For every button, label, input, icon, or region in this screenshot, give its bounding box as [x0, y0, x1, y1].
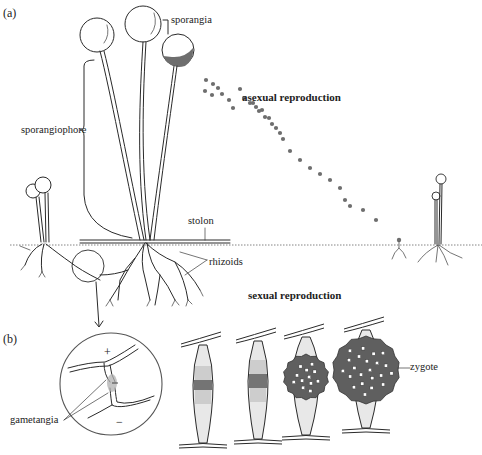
spore: [260, 108, 264, 112]
spore: [318, 172, 322, 176]
stage-mature-zygote: [333, 317, 399, 433]
panel-b-label: (b): [3, 333, 17, 345]
sporangiophore-bracket: [80, 60, 132, 238]
gametangia-label: gametangia: [10, 415, 58, 426]
spore: [298, 158, 302, 162]
sporangia-bracket: [163, 20, 168, 34]
spore: [328, 178, 332, 182]
magnify-arrow: [96, 282, 99, 326]
spore: [288, 149, 292, 153]
stolon-label: stolon: [188, 216, 214, 227]
gametangia-magnified-view: [60, 333, 162, 435]
spore: [348, 204, 352, 208]
sporangia-label: sporangia: [171, 15, 212, 26]
stage-young-zygote: [282, 324, 330, 440]
spore: [281, 137, 285, 141]
spore: [343, 198, 347, 202]
right-small-sporangiophores: [392, 174, 462, 265]
rhizoids-label: rhizoids: [209, 257, 243, 268]
spore: [231, 106, 235, 110]
spore: [374, 218, 378, 222]
panel-a-label: (a): [3, 7, 16, 19]
spore: [361, 208, 365, 212]
sporangium-releasing-spores: [162, 34, 194, 67]
spore: [278, 131, 282, 135]
stage-gametangia-contact: [179, 332, 227, 448]
spore: [211, 82, 215, 86]
sporangium-left: [80, 18, 114, 52]
stage-fusion: [234, 328, 282, 444]
spore: [203, 89, 207, 93]
asexual-reproduction-heading: asexual reproduction: [242, 92, 341, 103]
spore: [270, 122, 274, 126]
spore: [308, 166, 312, 170]
rhizoids: [100, 243, 203, 306]
left-small-sporangiophores: [20, 177, 104, 327]
rhizoids-leader: [180, 252, 207, 275]
spore: [338, 186, 342, 190]
spore: [220, 92, 224, 96]
spore: [267, 116, 271, 120]
spore: [254, 105, 258, 109]
zygote-label: zygote: [410, 362, 438, 373]
zygote-body: [284, 354, 329, 400]
main-sporangiophore-cluster: [80, 6, 230, 306]
spore: [210, 93, 214, 97]
spore: [274, 126, 278, 130]
minus-strain-sign: −: [116, 416, 123, 428]
spore: [263, 115, 267, 119]
life-cycle-diagram: [0, 0, 482, 455]
spore: [204, 78, 208, 82]
plus-strain-sign: +: [104, 346, 111, 358]
spore: [227, 98, 231, 102]
magnified-region-circle: [72, 250, 104, 282]
sexual-reproduction-heading: sexual reproduction: [248, 290, 341, 301]
spore: [216, 86, 220, 90]
zygote-development-stages: [179, 317, 399, 448]
sporangiophore-label: sporangiophore: [21, 125, 86, 136]
